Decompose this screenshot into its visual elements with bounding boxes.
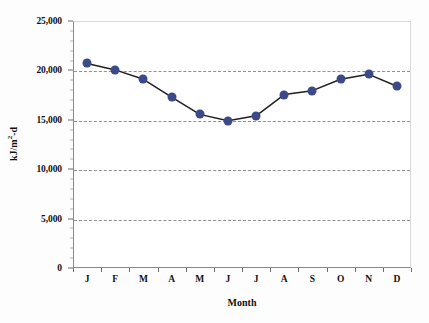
x-tick-label: F	[112, 274, 118, 284]
x-axis-title: Month	[228, 297, 257, 308]
y-minor-tick	[70, 159, 73, 160]
gridline-20000	[74, 71, 410, 72]
y-minor-tick	[70, 109, 73, 110]
data-point-marker	[336, 75, 345, 84]
y-minor-tick	[70, 80, 73, 81]
y-minor-tick	[70, 100, 73, 101]
x-tick-label: M	[139, 274, 148, 284]
x-tick-label: J	[254, 274, 259, 284]
x-tick-label: J	[85, 274, 90, 284]
y-minor-tick	[70, 228, 73, 229]
y-minor-tick	[70, 139, 73, 140]
y-tick-label: 15,000	[36, 115, 62, 125]
x-boundary-tick	[298, 268, 299, 272]
data-point-marker	[364, 70, 373, 79]
plot-area	[73, 21, 411, 268]
y-minor-tick	[70, 238, 73, 239]
y-tick-label: 20,000	[36, 65, 62, 75]
data-point-marker	[308, 86, 317, 95]
x-boundary-tick	[214, 268, 215, 272]
y-major-tick	[68, 169, 73, 170]
x-boundary-tick	[355, 268, 356, 272]
chart-figure: 05,00010,00015,00020,00025,000 kJ/m2-d J…	[0, 0, 429, 323]
x-boundary-tick	[270, 268, 271, 272]
data-point-marker	[139, 75, 148, 84]
y-tick-label: 25,000	[36, 16, 62, 26]
x-tick-label: A	[281, 274, 288, 284]
data-point-marker	[280, 90, 289, 99]
x-tick-label: O	[337, 274, 344, 284]
y-minor-tick	[70, 179, 73, 180]
data-point-marker	[167, 93, 176, 102]
x-tick-label: A	[168, 274, 175, 284]
y-minor-tick	[70, 40, 73, 41]
gridline-5000	[74, 220, 410, 221]
y-tick-label: 10,000	[36, 164, 62, 174]
x-boundary-tick	[186, 268, 187, 272]
y-major-tick	[68, 218, 73, 219]
y-minor-tick	[70, 30, 73, 31]
x-boundary-tick	[327, 268, 328, 272]
x-tick-label: D	[393, 274, 400, 284]
data-point-marker	[252, 111, 261, 120]
y-minor-tick	[70, 248, 73, 249]
y-minor-tick	[70, 198, 73, 199]
data-point-marker	[195, 110, 204, 119]
y-minor-tick	[70, 90, 73, 91]
y-major-tick	[68, 70, 73, 71]
x-boundary-tick	[129, 268, 130, 272]
y-axis-title: kJ/m2-d	[8, 127, 19, 161]
x-tick-label: M	[195, 274, 204, 284]
gridline-10000	[74, 170, 410, 171]
y-major-tick	[68, 21, 73, 22]
x-tick-label: N	[365, 274, 372, 284]
x-boundary-tick	[383, 268, 384, 272]
data-point-marker	[83, 59, 92, 68]
x-boundary-tick	[411, 268, 412, 272]
y-major-tick	[68, 119, 73, 120]
y-axis-title-exponent: 2	[6, 136, 14, 140]
y-tick-label: 0	[57, 263, 62, 273]
x-tick-label: S	[310, 274, 315, 284]
y-minor-tick	[70, 208, 73, 209]
y-axis-title-base: kJ/m	[8, 139, 19, 161]
x-boundary-tick	[158, 268, 159, 272]
gridline-15000	[74, 121, 410, 122]
x-boundary-tick	[73, 268, 74, 272]
y-minor-tick	[70, 50, 73, 51]
y-minor-tick	[70, 129, 73, 130]
x-tick-label: J	[226, 274, 231, 284]
x-boundary-tick	[101, 268, 102, 272]
y-minor-tick	[70, 60, 73, 61]
data-point-marker	[223, 116, 232, 125]
y-tick-label: 5,000	[41, 214, 62, 224]
y-minor-tick	[70, 258, 73, 259]
data-point-marker	[111, 65, 120, 74]
data-point-marker	[392, 82, 401, 91]
y-minor-tick	[70, 188, 73, 189]
y-minor-tick	[70, 149, 73, 150]
x-boundary-tick	[242, 268, 243, 272]
y-axis-title-tail: -d	[8, 127, 19, 136]
